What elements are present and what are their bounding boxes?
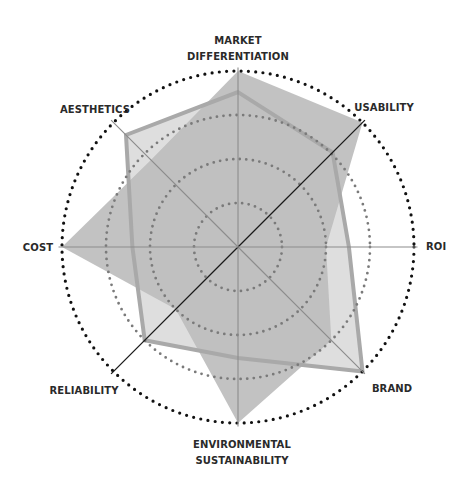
axis-label-line: AESTHETICS xyxy=(60,104,130,115)
axis-label-line: MARKET xyxy=(214,35,261,46)
axis-label-cost: COST xyxy=(23,242,53,253)
radar-chart: MARKETDIFFERENTIATIONUSABILITYROIBRANDEN… xyxy=(0,0,467,489)
axis-label-line: ROI xyxy=(426,241,446,252)
axis-label-line: BRAND xyxy=(372,383,412,394)
axis-label-aesthetics: AESTHETICS xyxy=(60,104,130,115)
axis-label-environmental-sustainability: ENVIRONMENTALSUSTAINABILITY xyxy=(193,439,291,466)
axis-label-reliability: RELIABILITY xyxy=(50,385,120,396)
axis-label-roi: ROI xyxy=(426,241,446,252)
axis-label-usability: USABILITY xyxy=(354,102,414,113)
axis-label-market-differentiation: MARKETDIFFERENTIATION xyxy=(187,35,289,62)
axis-label-line: RELIABILITY xyxy=(50,385,120,396)
axis-label-line: COST xyxy=(23,242,53,253)
axis-lines xyxy=(59,68,418,427)
axis-label-line: SUSTAINABILITY xyxy=(195,455,289,466)
axis-label-brand: BRAND xyxy=(372,383,412,394)
axis-label-line: DIFFERENTIATION xyxy=(187,51,289,62)
axis-label-line: USABILITY xyxy=(354,102,414,113)
axis-label-line: ENVIRONMENTAL xyxy=(193,439,291,450)
